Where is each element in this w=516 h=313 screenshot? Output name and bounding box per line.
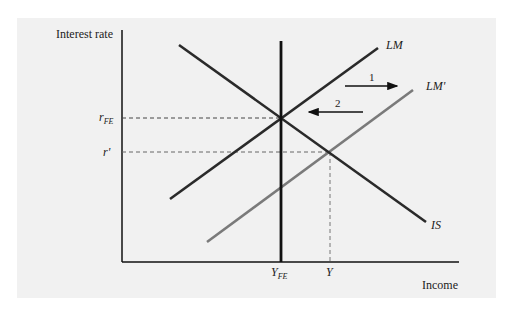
r-prime-label: r' <box>103 145 111 159</box>
lm-prime-label: LM' <box>425 79 446 93</box>
lm-label: LM <box>385 38 404 52</box>
y-label: Y <box>326 265 334 279</box>
lm-prime-curve <box>207 90 413 242</box>
is-label: IS <box>430 218 441 232</box>
arrow-1-label: 1 <box>369 71 375 83</box>
arrow-2-label: 2 <box>335 97 341 109</box>
is-curve <box>179 45 426 222</box>
y-axis-label: Interest rate <box>56 27 113 41</box>
y-fe-label: YFE <box>271 265 288 281</box>
is-lm-diagram: Interest rate Income rFE r' YFE Y LM LM'… <box>0 0 516 313</box>
r-fe-label: rFE <box>99 110 114 126</box>
lm-curve <box>170 48 378 199</box>
x-axis-label: Income <box>422 278 458 292</box>
